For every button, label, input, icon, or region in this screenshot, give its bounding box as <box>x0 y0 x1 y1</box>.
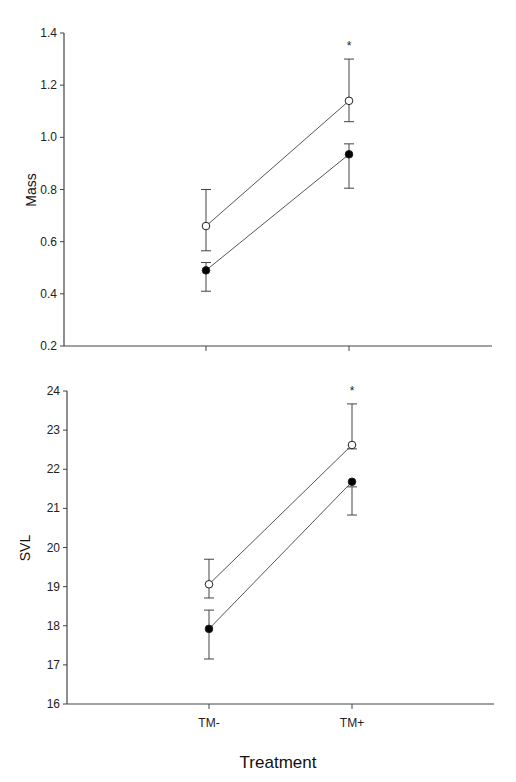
series-filled-circles <box>201 144 354 291</box>
significance-asterisk: * <box>350 384 355 398</box>
open-circle-marker <box>205 580 213 588</box>
y-tick-label: 22 <box>47 462 61 476</box>
y-axis-title: SVL <box>17 535 33 562</box>
open-circle-marker <box>345 97 353 105</box>
chart-canvas: 0.20.40.60.81.01.21.4Mass*16171819202122… <box>0 0 516 782</box>
x-axis-title: Treatment <box>240 753 317 772</box>
y-tick-label: 20 <box>47 541 61 555</box>
y-tick-label: 0.2 <box>40 339 57 353</box>
series-line <box>206 101 349 226</box>
y-tick-label: 16 <box>47 697 61 711</box>
filled-circle-marker <box>205 625 213 633</box>
figure: 0.20.40.60.81.01.21.4Mass*16171819202122… <box>0 0 516 782</box>
significance-asterisk: * <box>347 39 352 53</box>
series-line <box>206 154 349 270</box>
x-tick-label: TM+ <box>340 716 364 730</box>
series-line <box>209 445 352 584</box>
filled-circle-marker <box>348 478 356 486</box>
y-tick-label: 23 <box>47 423 61 437</box>
y-tick-label: 1.0 <box>40 130 57 144</box>
panel-top: 0.20.40.60.81.01.21.4Mass* <box>23 26 492 353</box>
y-tick-label: 0.4 <box>40 287 57 301</box>
filled-circle-marker <box>202 267 210 275</box>
y-tick-label: 21 <box>47 501 61 515</box>
open-circle-marker <box>202 222 210 230</box>
series-line <box>209 482 352 629</box>
y-tick-label: 24 <box>47 384 61 398</box>
y-axis-title: Mass <box>23 173 39 206</box>
y-tick-label: 18 <box>47 619 61 633</box>
y-tick-label: 0.6 <box>40 235 57 249</box>
y-tick-label: 17 <box>47 658 61 672</box>
series-filled-circles <box>204 482 357 659</box>
panel-bottom: 161718192021222324TM-TM+SVLTreatment* <box>17 384 494 772</box>
y-tick-label: 1.2 <box>40 78 57 92</box>
y-tick-label: 0.8 <box>40 183 57 197</box>
series-open-circles <box>201 59 354 251</box>
y-tick-label: 19 <box>47 580 61 594</box>
open-circle-marker <box>348 441 356 449</box>
x-tick-label: TM- <box>198 716 219 730</box>
filled-circle-marker <box>345 150 353 158</box>
y-tick-label: 1.4 <box>40 26 57 40</box>
